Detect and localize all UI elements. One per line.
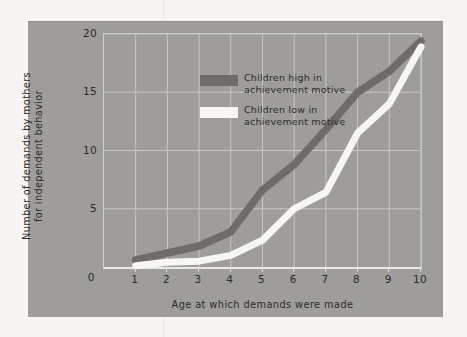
y-tick-label: 10 — [75, 144, 97, 156]
legend-label-high: Children high in achievement motive — [244, 72, 348, 95]
legend-item-low: Children low in achievement motive — [200, 104, 348, 127]
x-tick-mark — [325, 268, 326, 272]
legend-item-high: Children high in achievement motive — [200, 72, 348, 95]
legend: Children high in achievement motive Chil… — [200, 72, 348, 136]
legend-swatch-low-icon — [200, 107, 238, 118]
x-tick-mark — [198, 268, 199, 272]
legend-label-low: Children low in achievement motive — [244, 104, 348, 127]
x-tick-mark — [357, 268, 358, 272]
x-tick-mark — [230, 268, 231, 272]
x-tick-mark — [262, 268, 263, 272]
x-tick-label: 4 — [220, 273, 240, 285]
x-tick-mark — [293, 268, 294, 272]
x-tick-label: 6 — [283, 273, 303, 285]
y-tick-label: 15 — [75, 85, 97, 97]
x-tick-label: 10 — [410, 273, 430, 285]
y-tick-label: 20 — [75, 27, 97, 39]
x-tick-label: 3 — [188, 273, 208, 285]
x-tick-label: 9 — [378, 273, 398, 285]
y-tick-label: 5 — [75, 202, 97, 214]
chart-panel: Number of demands by mothers for indepen… — [28, 21, 443, 317]
y-axis-title: Number of demands by mothers for indepen… — [21, 58, 47, 254]
x-tick-mark — [135, 268, 136, 272]
x-tick-mark — [388, 268, 389, 272]
x-tick-label: 1 — [125, 273, 145, 285]
x-tick-mark — [166, 268, 167, 272]
x-tick-label: 7 — [315, 273, 335, 285]
chart-lines-svg — [104, 34, 421, 267]
x-tick-label: 2 — [156, 273, 176, 285]
legend-swatch-high-icon — [200, 75, 238, 86]
x-tick-mark — [420, 268, 421, 272]
x-axis-title: Age at which demands were made — [103, 299, 422, 310]
plot-area: Children high in achievement motive Chil… — [103, 33, 422, 269]
x-tick-label: 8 — [347, 273, 367, 285]
origin-tick-label: 0 — [86, 271, 96, 283]
x-tick-label: 5 — [252, 273, 272, 285]
